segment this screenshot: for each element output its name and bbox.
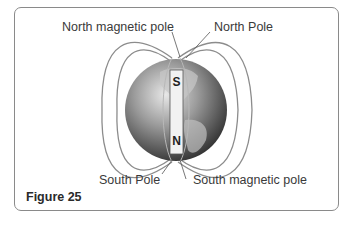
magnet-s-pole: S: [172, 75, 180, 89]
label-north-pole: North Pole: [214, 20, 273, 34]
label-south-magnetic-pole: South magnetic pole: [193, 173, 307, 187]
label-south-pole: South Pole: [99, 173, 160, 187]
label-north-magnetic-pole: North magnetic pole: [62, 20, 174, 34]
figure-caption: Figure 25: [26, 190, 82, 204]
magnet-n-pole: N: [172, 134, 181, 148]
